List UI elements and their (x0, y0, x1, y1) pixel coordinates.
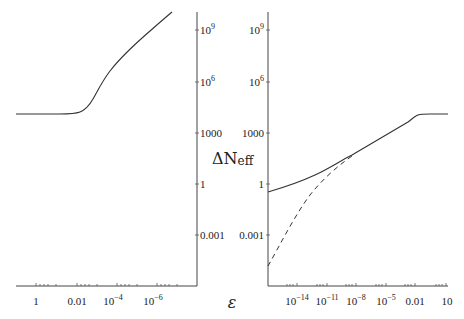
right-x-tick-10: 10 (442, 295, 454, 307)
left-y-tick-1000: 1000 (200, 127, 223, 139)
right-x-tick-1e-14: 10−14 (285, 293, 309, 307)
left-x-tick-0.01: 0.01 (67, 295, 86, 307)
left-y-tick-1e9: 109 (200, 22, 215, 36)
left-x-tick-1: 1 (33, 295, 39, 307)
right-y-tick-0.001: 0.001 (239, 229, 264, 241)
right-dashed-curve (268, 156, 352, 266)
right-panel: 109 106 1000 1 0.001 10−14 10−11 10−8 10… (239, 12, 453, 307)
right-x-tick-0.01: 0.01 (405, 295, 424, 307)
left-y-tick-0.001: 0.001 (200, 229, 225, 241)
right-y-tick-1000: 1000 (242, 127, 265, 139)
right-y-tick-1e9: 109 (249, 22, 264, 36)
left-x-tick-1e-4: 10−4 (103, 293, 123, 307)
right-y-tick-1e6: 106 (249, 74, 264, 88)
left-x-tick-1e-6: 10−6 (143, 293, 163, 307)
x-axis-label: ε (228, 293, 237, 312)
right-x-tick-1e-11: 10−11 (315, 293, 338, 307)
right-x-tick-1e-8: 10−8 (346, 293, 366, 307)
left-panel: 109 106 1000 1 0.001 1 0.01 10−4 10−6 (16, 12, 225, 307)
right-y-tick-1: 1 (259, 178, 265, 190)
left-y-tick-1: 1 (200, 178, 206, 190)
right-x-tick-1e-5: 10−5 (376, 293, 396, 307)
left-solid-curve (16, 12, 172, 114)
right-solid-curve (268, 114, 448, 192)
y-axis-label: ΔNeff (212, 149, 255, 168)
chart-canvas: 109 106 1000 1 0.001 1 0.01 10−4 10−6 10… (0, 0, 464, 319)
left-y-tick-1e6: 106 (200, 74, 215, 88)
